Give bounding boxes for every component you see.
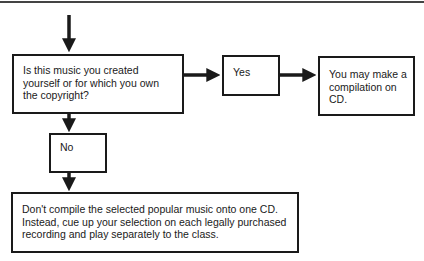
no-result-text: Don't compile the selected popular music…	[22, 203, 292, 241]
no-result-box: Don't compile the selected popular music…	[11, 192, 299, 253]
no-box: No	[49, 133, 107, 173]
question-box: Is this music you created yourself or fo…	[12, 54, 184, 114]
question-text: Is this music you created yourself or fo…	[23, 64, 168, 102]
yes-label: Yes	[233, 66, 278, 79]
yes-result-box: You may make a compilation on CD.	[318, 56, 415, 116]
yes-result-text: You may make a compilation on CD.	[329, 68, 409, 106]
no-label: No	[60, 141, 105, 154]
yes-box: Yes	[222, 55, 280, 96]
